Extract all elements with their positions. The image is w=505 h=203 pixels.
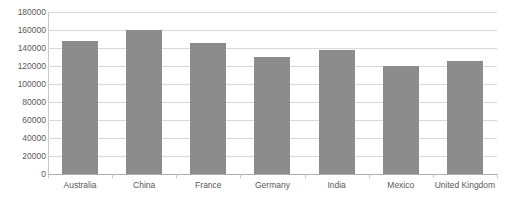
x-axis-tick-label: Germany bbox=[240, 180, 304, 190]
plot-area bbox=[48, 12, 497, 174]
y-axis-tick-label: 80000 bbox=[2, 98, 46, 106]
x-axis-tick bbox=[112, 174, 113, 178]
x-axis-tick bbox=[369, 174, 370, 178]
bar[interactable] bbox=[190, 43, 226, 174]
bar[interactable] bbox=[126, 30, 162, 174]
axis-baseline bbox=[48, 174, 497, 175]
y-axis-tick-label: 0 bbox=[2, 170, 46, 178]
x-axis-tick-label: Australia bbox=[48, 180, 112, 190]
bar-chart: 0200004000060000800001000001200001400001… bbox=[0, 0, 505, 203]
y-axis-tick-label: 20000 bbox=[2, 152, 46, 160]
chart-title bbox=[0, 0, 505, 3]
y-axis-tick-label: 60000 bbox=[2, 116, 46, 124]
x-axis-tick bbox=[48, 174, 49, 178]
y-axis-tick-label: 180000 bbox=[2, 8, 46, 16]
x-axis-tick bbox=[305, 174, 306, 178]
bar[interactable] bbox=[62, 41, 98, 174]
y-axis-tick-labels: 0200004000060000800001000001200001400001… bbox=[0, 12, 46, 174]
bar-slot bbox=[48, 12, 112, 174]
x-axis-tick-label: United Kingdom bbox=[433, 180, 497, 190]
x-axis-tick-labels: AustraliaChinaFranceGermanyIndiaMexicoUn… bbox=[48, 180, 497, 200]
y-axis-tick-label: 120000 bbox=[2, 62, 46, 70]
bar-slot bbox=[240, 12, 304, 174]
y-axis-tick-label: 100000 bbox=[2, 80, 46, 88]
bar-slot bbox=[433, 12, 497, 174]
y-axis-tick-label: 140000 bbox=[2, 44, 46, 52]
x-axis-tick bbox=[433, 174, 434, 178]
bar[interactable] bbox=[319, 50, 355, 174]
x-axis-tick-label: Mexico bbox=[369, 180, 433, 190]
x-axis-tick-label: France bbox=[176, 180, 240, 190]
y-axis-tick-label: 40000 bbox=[2, 134, 46, 142]
bar-slot bbox=[112, 12, 176, 174]
bar-slot bbox=[176, 12, 240, 174]
y-axis-tick-label: 160000 bbox=[2, 26, 46, 34]
bar-slot bbox=[369, 12, 433, 174]
bar[interactable] bbox=[254, 57, 290, 174]
x-axis-tick-label: China bbox=[112, 180, 176, 190]
x-axis-tick bbox=[176, 174, 177, 178]
bar-slot bbox=[305, 12, 369, 174]
bar[interactable] bbox=[383, 66, 419, 174]
x-axis-tick bbox=[240, 174, 241, 178]
x-axis-tick-label: India bbox=[305, 180, 369, 190]
x-axis-tick bbox=[497, 174, 498, 178]
bar[interactable] bbox=[447, 61, 483, 174]
